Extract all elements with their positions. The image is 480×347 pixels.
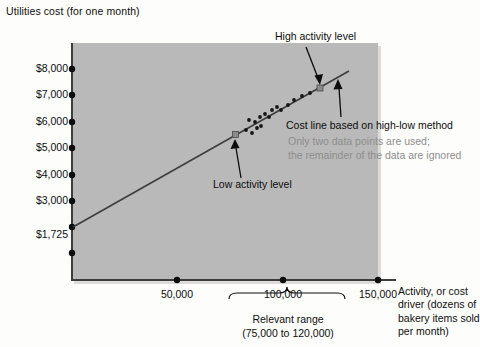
note-line-1: Only two data points are used;	[288, 135, 430, 147]
data-point	[247, 118, 251, 122]
data-point	[253, 120, 257, 124]
high-activity-marker	[317, 85, 323, 91]
x-axis-label-50000: 50,000	[142, 288, 212, 300]
figure-container: Utilities cost (for one month)	[0, 0, 480, 347]
y-axis-label-6000: $6,000	[6, 115, 68, 127]
x-axis-label-100000: 100,000	[248, 288, 318, 300]
y-axis-label-1725: $1,725	[6, 228, 68, 240]
y-tick-dot	[69, 66, 75, 72]
y-tick-dot	[69, 198, 75, 204]
low-activity-annotation: Low activity level	[213, 178, 292, 190]
y-tick-dot	[69, 145, 75, 151]
plot-shadow-bottom	[74, 281, 381, 284]
data-point	[258, 115, 262, 119]
relevant-range-values: (75,000 to 120,000)	[242, 327, 334, 339]
high-activity-annotation: High activity level	[275, 30, 356, 42]
data-point	[244, 128, 248, 132]
data-point	[279, 108, 283, 112]
data-point	[263, 112, 267, 116]
y-axis-label-8000: $8,000	[6, 62, 68, 74]
data-point	[259, 124, 263, 128]
x-tick-dot	[375, 277, 381, 283]
data-point	[286, 103, 290, 107]
plot-area-background	[72, 43, 378, 281]
data-point	[250, 131, 254, 135]
y-axis-label-3000: $3,000	[6, 194, 68, 206]
y-tick-dot	[69, 92, 75, 98]
y-axis-label-4000: $4,000	[6, 168, 68, 180]
data-point	[275, 105, 279, 109]
data-point	[255, 126, 259, 130]
data-point	[270, 108, 274, 112]
relevant-range-label: Relevant range	[252, 313, 323, 325]
note-line-2: the remainder of the data are ignored	[288, 149, 461, 161]
data-point	[300, 94, 304, 98]
y-tick-dot	[69, 250, 75, 256]
data-point	[308, 91, 312, 95]
cost-line-annotation: Cost line based on high-low method	[286, 119, 453, 131]
low-activity-marker	[233, 132, 239, 138]
data-point	[267, 115, 271, 119]
y-axis-label-7000: $7,000	[6, 88, 68, 100]
x-tick-dot	[280, 277, 286, 283]
data-point	[292, 98, 296, 102]
y-axis-label-5000: $5,000	[6, 141, 68, 153]
x-tick-dot	[174, 277, 180, 283]
x-axis-title: Activity, or cost driver (dozens of bake…	[398, 285, 480, 339]
y-tick-dot	[69, 172, 75, 178]
plot-shadow-right	[378, 46, 381, 284]
y-tick-dot	[69, 119, 75, 125]
